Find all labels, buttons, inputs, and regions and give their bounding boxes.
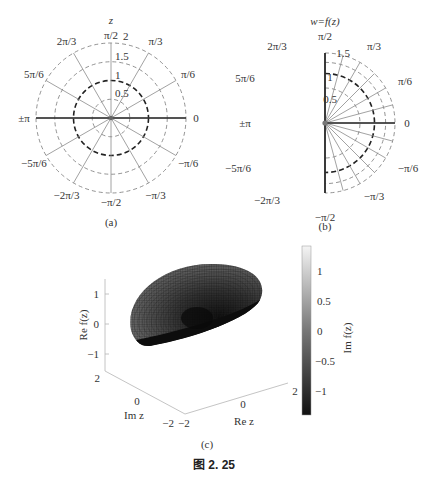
svg-text:−0.5: −0.5 bbox=[315, 355, 335, 367]
re-z-axis-label: Re z bbox=[234, 415, 254, 427]
svg-text:0: 0 bbox=[94, 318, 100, 330]
angle-label-b: 5π/6 bbox=[235, 72, 255, 84]
angle-ray bbox=[111, 118, 149, 183]
svg-text:2: 2 bbox=[95, 372, 101, 384]
angle-label: 0 bbox=[193, 112, 199, 124]
angle-label-b: −2π/3 bbox=[254, 194, 280, 206]
angle-label-b: π/2 bbox=[318, 30, 332, 42]
im-z-axis-label: Im z bbox=[124, 409, 144, 421]
mapped-angle-ray bbox=[325, 55, 343, 123]
svg-text:2: 2 bbox=[292, 385, 298, 397]
radius-label: 1.5 bbox=[115, 50, 129, 62]
angle-label: 2π/3 bbox=[57, 35, 77, 47]
angle-ray bbox=[74, 53, 112, 118]
radius-label: 1 bbox=[115, 69, 121, 81]
angle-ray bbox=[46, 81, 111, 119]
svg-text:−1: −1 bbox=[87, 348, 99, 360]
angle-label: −π/6 bbox=[178, 157, 199, 169]
angle-label: 5π/6 bbox=[24, 68, 44, 80]
panel-c-3d-surface: 1 0 −1 Re f(z) 2 0 −2 Im z −2 0 2 Re z 1… bbox=[77, 246, 354, 451]
angle-label: −π/3 bbox=[145, 189, 166, 201]
angle-label: π/3 bbox=[148, 35, 163, 47]
angle-ray bbox=[74, 118, 112, 183]
z-plane-polar-grid bbox=[36, 43, 186, 193]
angle-label: π/6 bbox=[181, 68, 196, 80]
colorbar-label: Im f(z) bbox=[341, 322, 354, 353]
angle-label: −π/2 bbox=[101, 196, 121, 208]
colorbar-tick-labels: 1 0.5 0 −0.5 −1 bbox=[315, 265, 335, 397]
angle-ray bbox=[111, 53, 149, 118]
w-plane-mapped-grid bbox=[322, 53, 395, 193]
angle-label-b: ±π bbox=[239, 117, 251, 129]
svg-text:1: 1 bbox=[94, 288, 100, 300]
angle-label-b: −π/6 bbox=[398, 162, 419, 174]
angle-label-b: 2π/3 bbox=[267, 40, 287, 52]
surface-re-f-z bbox=[114, 246, 280, 368]
angle-label: π/2 bbox=[104, 29, 118, 41]
origin-marker-b bbox=[322, 120, 327, 125]
figure-caption: 图 2. 25 bbox=[193, 458, 235, 472]
radius-label-b: 1.5 bbox=[336, 47, 350, 59]
svg-text:−2: −2 bbox=[162, 417, 174, 429]
angle-ray bbox=[111, 118, 176, 156]
z-plane-title: z bbox=[108, 14, 114, 26]
svg-text:0: 0 bbox=[134, 395, 140, 407]
figure-2-25: z 0π/6π/3π/22π/35π/6±π−5π/6−2π/3−π/2−π/3… bbox=[0, 0, 429, 483]
mapped-angle-ray bbox=[325, 105, 393, 123]
w-plane-title: w=f(z) bbox=[310, 15, 340, 28]
radius-label-b: 0.5 bbox=[323, 93, 337, 105]
panel-a-z-plane: z 0π/6π/3π/22π/35π/6±π−5π/6−2π/3−π/2−π/3… bbox=[18, 14, 199, 229]
colorbar: 1 0.5 0 −0.5 −1 Im f(z) bbox=[302, 246, 354, 415]
caption-a: (a) bbox=[105, 216, 118, 229]
radius-label: 2 bbox=[123, 30, 129, 42]
radius-labels-b: 0.511.5 bbox=[323, 47, 350, 105]
angle-label-b: 0 bbox=[404, 117, 410, 129]
re-z-axis-line bbox=[185, 383, 288, 414]
svg-text:−2: −2 bbox=[178, 417, 190, 429]
panel-b-w-plane: w=f(z) 0π/6π/3π/22π/35π/6±π−5π/6−2π/3−π/… bbox=[225, 15, 419, 233]
angle-label-b: π/6 bbox=[398, 75, 413, 87]
caption-b: (b) bbox=[319, 220, 332, 233]
mapped-angle-ray bbox=[325, 123, 393, 141]
angle-ray bbox=[111, 81, 176, 119]
svg-text:0.5: 0.5 bbox=[317, 295, 331, 307]
mapped-angle-ray bbox=[325, 123, 343, 191]
angle-labels-b: 0π/6π/3π/22π/35π/6±π−5π/6−2π/3−π/2−π/3−π… bbox=[225, 30, 419, 223]
angle-label: ±π bbox=[18, 112, 30, 124]
angle-label: −2π/3 bbox=[54, 189, 80, 201]
radius-label-b: 1 bbox=[327, 71, 333, 83]
im-z-axis-line bbox=[105, 371, 185, 414]
z-axis-label: Re f(z) bbox=[77, 309, 90, 340]
angle-label-b: π/3 bbox=[367, 40, 382, 52]
caption-c: (c) bbox=[201, 438, 214, 451]
svg-text:0: 0 bbox=[240, 398, 246, 410]
angle-ray bbox=[46, 118, 111, 156]
angle-label: −5π/6 bbox=[21, 157, 47, 169]
svg-text:−1: −1 bbox=[315, 385, 327, 397]
angle-label-b: −π/3 bbox=[364, 190, 385, 202]
angle-label-b: −5π/6 bbox=[225, 162, 251, 174]
svg-text:1: 1 bbox=[317, 265, 323, 277]
origin-marker bbox=[109, 116, 113, 120]
svg-text:0: 0 bbox=[317, 325, 323, 337]
radius-label: 0.5 bbox=[115, 87, 129, 99]
z-tick-labels: 1 0 −1 bbox=[87, 288, 99, 360]
